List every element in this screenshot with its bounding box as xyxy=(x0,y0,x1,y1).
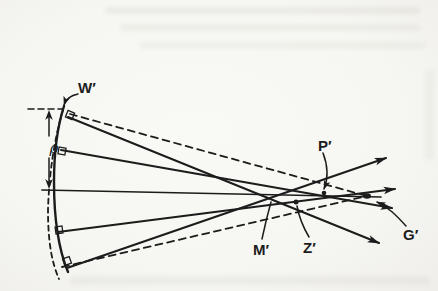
optical-axis xyxy=(42,190,381,197)
rho-label: ρ xyxy=(49,139,59,157)
wavefront-arc xyxy=(54,106,68,272)
aberration-diagram: W′ ρ P′ M′ Z′ G′ xyxy=(0,0,438,291)
scanned-page: W′ ρ P′ M′ Z′ G′ xyxy=(0,0,438,291)
marginal-ray-lower xyxy=(67,158,386,268)
reference-ray-upper xyxy=(70,114,367,196)
zonal-ray-lower xyxy=(58,189,395,232)
p-point-dot xyxy=(322,191,327,196)
marginal-focus-label: M′ xyxy=(253,241,269,258)
wavefront-label: W′ xyxy=(78,79,96,96)
wavefront-leader xyxy=(64,94,78,105)
zonal-point-label: Z′ xyxy=(303,239,316,256)
gaussian-focus-dot xyxy=(363,193,371,199)
gaussian-point-label: G′ xyxy=(403,226,419,243)
p-point-label: P′ xyxy=(318,137,332,154)
zonal-ray-upper xyxy=(61,150,392,208)
right-angle-mark xyxy=(63,257,72,266)
reference-ray-lower xyxy=(62,196,367,267)
zonal-point-dot xyxy=(294,200,299,205)
